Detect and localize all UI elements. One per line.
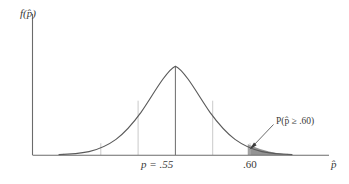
probability-annotation: P(p̂ ≥ .60) [276, 116, 314, 126]
figure-normal-distribution: f(p̂) p = .55 .60 p̂ P(p̂ ≥ .60) [0, 0, 349, 184]
distribution-plot [0, 0, 349, 184]
x-tick-label-mean: p = .55 [141, 158, 173, 170]
annotation-arrow [250, 125, 274, 150]
x-axis-label: p̂ [331, 158, 337, 170]
x-tick-label-060: .60 [243, 158, 257, 170]
y-axis-label: f(p̂) [20, 7, 36, 19]
